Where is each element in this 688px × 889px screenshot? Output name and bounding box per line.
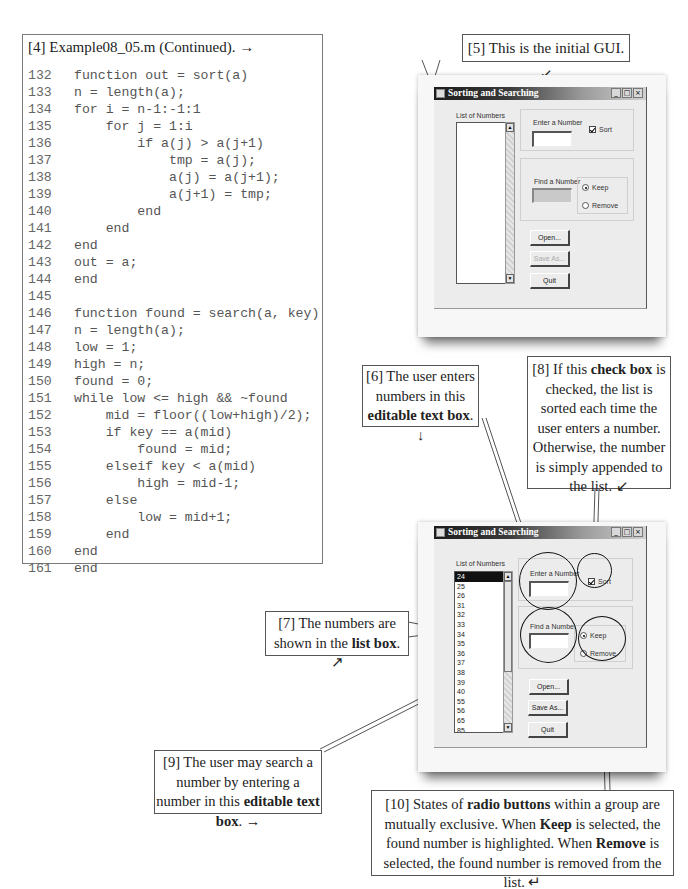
code-line: 151while low <= high && ~found xyxy=(28,390,319,407)
code-line: 160end xyxy=(28,543,319,560)
list-item[interactable]: 85 xyxy=(455,726,504,734)
list-item[interactable]: 55 xyxy=(455,697,504,707)
list-scrollbar[interactable]: ▲ ▼ xyxy=(503,571,513,733)
close-button[interactable]: × xyxy=(633,88,643,98)
scroll-down-arrow-icon[interactable]: ▼ xyxy=(504,723,512,732)
scroll-up-arrow-icon[interactable]: ▲ xyxy=(504,572,512,581)
code-line: 150found = 0; xyxy=(28,373,319,390)
code-text: low = mid+1; xyxy=(74,510,232,525)
minimize-button[interactable]: _ xyxy=(611,88,621,98)
save-as-button[interactable]: Save As... xyxy=(530,251,570,267)
list-item[interactable]: 25 xyxy=(455,582,504,592)
callout-initial-gui: [5] This is the initial GUI. ↙ xyxy=(462,34,630,62)
maximize-button[interactable]: □ xyxy=(622,88,632,98)
numbers-list-box[interactable] xyxy=(456,122,506,284)
code-line: 147n = length(a); xyxy=(28,322,319,339)
list-item[interactable]: 24 xyxy=(455,572,504,582)
line-number: 143 xyxy=(28,254,74,271)
list-item[interactable]: 38 xyxy=(455,668,504,678)
list-item[interactable]: 65 xyxy=(455,716,504,726)
maximize-button[interactable]: □ xyxy=(622,527,632,537)
callout-10-text: [10] States of xyxy=(385,796,467,812)
list-item[interactable]: 40 xyxy=(455,687,504,697)
scrollbar-thumb[interactable] xyxy=(504,581,512,672)
line-number: 137 xyxy=(28,152,74,169)
scroll-up-arrow-icon[interactable]: ▲ xyxy=(506,123,514,132)
app-icon xyxy=(436,89,445,98)
scroll-down-arrow-icon[interactable]: ▼ xyxy=(506,274,514,283)
arrow-right-icon: → xyxy=(239,39,254,55)
code-text: found = mid; xyxy=(74,442,232,457)
callout-10-bold-3: Remove xyxy=(596,835,646,851)
code-text: mid = floor((low+high)/2); xyxy=(74,408,311,423)
highlight-circle-enter-number xyxy=(519,552,577,610)
code-line: 132function out = sort(a) xyxy=(28,67,319,84)
keep-radio[interactable]: Keep xyxy=(582,184,608,191)
list-scrollbar[interactable]: ▲ ▼ xyxy=(505,122,515,284)
title-bar[interactable]: Sorting and Searching _ □ × xyxy=(434,526,646,539)
listing-title-text: [4] Example08_05.m (Continued). xyxy=(28,39,235,55)
code-text: end xyxy=(74,204,161,219)
line-number: 144 xyxy=(28,271,74,288)
line-number: 139 xyxy=(28,186,74,203)
radio-selected-icon xyxy=(582,184,589,191)
save-as-button[interactable]: Save As... xyxy=(528,700,568,716)
list-label: List of Numbers xyxy=(456,112,505,119)
callout-6-bold: editable text box xyxy=(368,407,470,423)
code-text: if a(j) > a(j+1) xyxy=(74,136,264,151)
list-item[interactable]: 32 xyxy=(455,610,504,620)
list-item[interactable]: 26 xyxy=(455,591,504,601)
code-text: low = 1; xyxy=(74,340,137,355)
line-number: 152 xyxy=(28,407,74,424)
numbers-list-box[interactable]: 2425263132333435363738394055566585101102… xyxy=(454,571,504,733)
listing-title: [4] Example08_05.m (Continued). → xyxy=(28,39,254,56)
close-button[interactable]: × xyxy=(633,527,643,537)
code-line: 146function found = search(a, key) xyxy=(28,305,319,322)
highlight-circle-find-number xyxy=(520,607,577,663)
list-item[interactable]: 36 xyxy=(455,649,504,659)
code-line: 158 low = mid+1; xyxy=(28,509,319,526)
line-number: 136 xyxy=(28,135,74,152)
line-number: 147 xyxy=(28,322,74,339)
code-text: found = 0; xyxy=(74,374,153,389)
sort-checkbox[interactable]: Sort xyxy=(589,126,612,133)
code-text: n = length(a); xyxy=(74,323,185,338)
code-text: end xyxy=(74,544,98,559)
line-number: 159 xyxy=(28,526,74,543)
enter-number-input[interactable] xyxy=(532,131,572,147)
code-lines: 132function out = sort(a)133n = length(a… xyxy=(28,67,319,577)
window-title: Sorting and Searching xyxy=(448,526,539,539)
list-item[interactable]: 33 xyxy=(455,620,504,630)
code-text: a(j) = a(j+1); xyxy=(74,170,280,185)
code-text: tmp = a(j); xyxy=(74,153,256,168)
quit-button[interactable]: Quit xyxy=(530,273,570,289)
code-text: out = a; xyxy=(74,255,137,270)
line-number: 153 xyxy=(28,424,74,441)
remove-label: Remove xyxy=(592,202,618,209)
list-item[interactable]: 56 xyxy=(455,706,504,716)
line-number: 140 xyxy=(28,203,74,220)
quit-button[interactable]: Quit xyxy=(528,722,568,738)
code-line: 133n = length(a); xyxy=(28,84,319,101)
sort-label: Sort xyxy=(599,126,612,133)
line-number: 142 xyxy=(28,237,74,254)
title-bar[interactable]: Sorting and Searching _ □ × xyxy=(434,87,646,100)
remove-radio[interactable]: Remove xyxy=(582,202,618,209)
line-number: 135 xyxy=(28,118,74,135)
code-line: 154 found = mid; xyxy=(28,441,319,458)
line-number: 157 xyxy=(28,492,74,509)
code-line: 161end xyxy=(28,560,319,577)
list-item[interactable]: 37 xyxy=(455,658,504,668)
list-item[interactable]: 39 xyxy=(455,678,504,688)
list-item[interactable]: 31 xyxy=(455,601,504,611)
open-button[interactable]: Open... xyxy=(530,230,570,246)
minimize-button[interactable]: _ xyxy=(611,527,621,537)
code-line: 138 a(j) = a(j+1); xyxy=(28,169,319,186)
callout-radio-buttons: [10] States of radio buttons within a gr… xyxy=(371,790,674,876)
radio-unselected-icon xyxy=(582,202,589,209)
find-number-input[interactable] xyxy=(532,188,572,203)
open-button[interactable]: Open... xyxy=(529,679,569,695)
list-item[interactable]: 34 xyxy=(455,630,504,640)
list-item[interactable]: 35 xyxy=(455,639,504,649)
find-number-label: Find a Number xyxy=(534,178,580,185)
